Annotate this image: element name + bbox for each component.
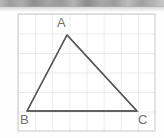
geometry-figure: A B C [0, 0, 164, 138]
vertex-label-a: A [57, 16, 66, 29]
vertex-label-b: B [20, 113, 29, 126]
grid-group [18, 14, 155, 131]
vertex-label-c: C [138, 113, 147, 126]
grid-lines [18, 14, 155, 131]
